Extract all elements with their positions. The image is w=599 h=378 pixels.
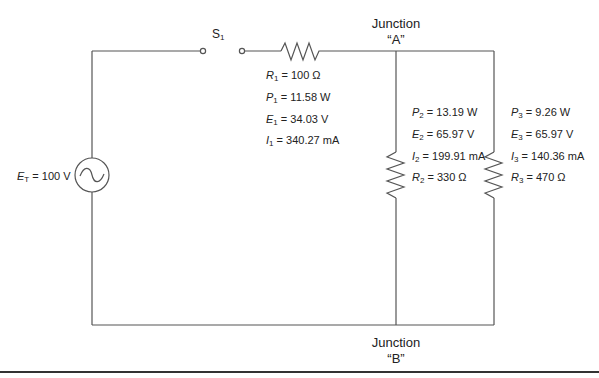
- r2-resistance: R2 = 330 Ω: [412, 171, 467, 187]
- switch-terminal-right-icon: [239, 48, 244, 53]
- switch-label: S1: [212, 28, 224, 44]
- source-label: ET = 100 V: [17, 170, 71, 186]
- junction-a-label: Junction “A”: [361, 16, 431, 48]
- circuit-schematic: [0, 0, 599, 378]
- r1-power: P1 = 11.58 W: [266, 91, 331, 107]
- r1-current: I1 = 340.27 mA: [266, 134, 339, 150]
- r3-power: P3 = 9.26 W: [511, 106, 570, 122]
- r1-voltage: E1 = 34.03 V: [266, 113, 328, 129]
- resistor-r1-icon: [281, 43, 323, 60]
- resistor-r2-icon: [387, 152, 404, 198]
- resistor-r3-icon: [485, 152, 502, 198]
- junction-b-label: Junction “B”: [361, 335, 431, 367]
- bottom-divider: [0, 371, 599, 373]
- r3-resistance: R3 = 470 Ω: [511, 171, 566, 187]
- r3-current: I3 = 140.36 mA: [511, 150, 584, 166]
- switch-terminal-left-icon: [200, 48, 205, 53]
- r2-current: I2 = 199.91 mA: [412, 150, 485, 166]
- r2-power: P2 = 13.19 W: [412, 106, 477, 122]
- r2-voltage: E2 = 65.97 V: [412, 128, 474, 144]
- r3-voltage: E3 = 65.97 V: [511, 128, 573, 144]
- r1-resistance: R1 = 100 Ω: [266, 69, 321, 85]
